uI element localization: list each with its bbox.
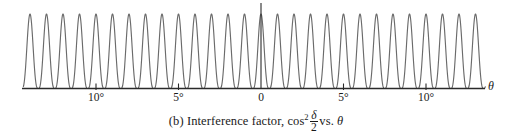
- caption-prefix: (b) Interference factor, cos: [169, 114, 305, 128]
- tick-label-minus-10: 10°: [80, 92, 112, 104]
- tick-label-plus-5: 5°: [328, 92, 359, 104]
- caption-fraction-numerator: δ: [310, 110, 318, 122]
- theta-axis-label: θ: [488, 80, 494, 92]
- tick-label-zero: 0: [246, 92, 276, 104]
- interference-curve: [23, 14, 485, 89]
- caption-suffix: vs.: [319, 114, 334, 128]
- interference-plot: [0, 0, 512, 105]
- figure-panel-b: 10° 5° 0 5° 10° θ (b) Interference facto…: [0, 0, 512, 133]
- tick-label-minus-5: 5°: [163, 92, 194, 104]
- caption-fraction-denominator: 2: [310, 121, 318, 133]
- figure-caption: (b) Interference factor, cos2δ2vs. θ: [0, 110, 512, 133]
- caption-fraction: δ2: [310, 110, 318, 134]
- curve-group: [23, 14, 485, 89]
- tick-label-plus-10: 10°: [410, 92, 442, 104]
- caption-variable: θ: [337, 114, 343, 128]
- caption-exponent: 2: [304, 112, 308, 122]
- axis-group: [22, 3, 485, 90]
